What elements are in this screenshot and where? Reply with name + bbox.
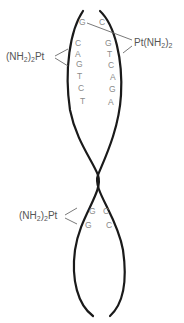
- base-right-1: G: [105, 38, 112, 48]
- base-left-5: C: [78, 83, 84, 93]
- base-left-3: G: [76, 59, 83, 69]
- dna-crosslink-diagram: G C C A G T C T G T C A G A Pt(NH2)2 (NH…: [0, 0, 184, 323]
- intrastrand-upper-bond-1: [55, 49, 68, 56]
- base-right-2: T: [107, 49, 112, 59]
- base-bottom-1-right: C: [103, 206, 109, 216]
- dna-strand-left: [68, 11, 99, 316]
- interstrand-pt-label: Pt(NH2)2: [134, 37, 172, 49]
- base-right-4: A: [110, 72, 116, 82]
- base-top-right: C: [99, 17, 105, 27]
- base-right-6: A: [108, 97, 114, 107]
- intrastrand-upper-bond-2: [55, 58, 68, 66]
- base-left-1: C: [75, 38, 81, 48]
- base-left-2: A: [75, 49, 81, 59]
- base-bottom-1-left: G: [89, 206, 96, 216]
- interstrand-bond-lower: [123, 46, 132, 53]
- base-left-6: T: [80, 96, 85, 106]
- intrastrand-lower-bond-2: [65, 218, 77, 224]
- base-left-4: T: [77, 71, 82, 81]
- intrastrand-lower-bond-1: [65, 208, 77, 215]
- intrastrand-pt-upper-label: (NH2)2Pt: [6, 51, 45, 63]
- intrastrand-pt-lower-label: (NH2)2Pt: [19, 210, 58, 222]
- base-right-3: C: [108, 60, 114, 70]
- base-right-5: G: [109, 84, 116, 94]
- base-bottom-2-left: G: [85, 220, 92, 230]
- base-bottom-2-right: C: [106, 220, 112, 230]
- base-top-left: G: [79, 17, 86, 27]
